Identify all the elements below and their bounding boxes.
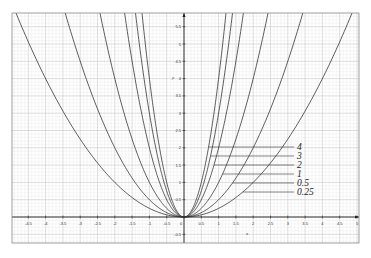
- y-tick-label: 5.5: [175, 24, 181, 29]
- x-tick-label: -1.5: [129, 221, 137, 226]
- x-tick-label: 2.5: [268, 221, 274, 226]
- x-tick-label: -0.5: [163, 221, 171, 226]
- x-tick-label: 3.5: [302, 221, 308, 226]
- y-tick-label: -0.5: [174, 232, 182, 237]
- x-tick-label: -4.5: [25, 221, 33, 226]
- y-tick-label: 0.5: [175, 197, 181, 202]
- x-tick-label: -3.5: [59, 221, 67, 226]
- x-tick-label: 4.5: [337, 221, 343, 226]
- parabola-chart: -4.5-4-3.5-3-2.5-2-1.5-1-0.500.511.522.5…: [0, 0, 371, 258]
- y-tick-label: 4.5: [175, 59, 181, 64]
- y-tick-label: 3.5: [175, 93, 181, 98]
- curve-label-0.25: 0.25: [297, 187, 314, 197]
- y-tick-label: 2.5: [175, 128, 181, 133]
- y-tick-label: 1.5: [175, 163, 181, 168]
- x-tick-label: 0.5: [199, 221, 205, 226]
- x-tick-label: 1.5: [233, 221, 239, 226]
- x-tick-label: -2.5: [94, 221, 102, 226]
